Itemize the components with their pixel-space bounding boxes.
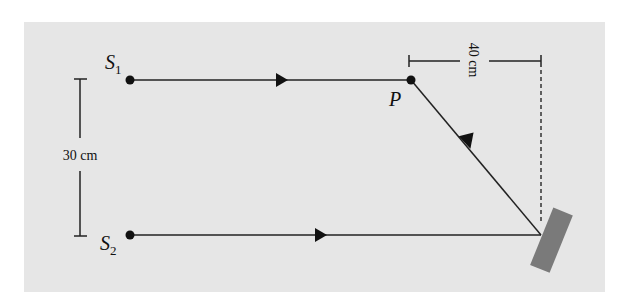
point-p-label: P (388, 88, 401, 110)
vertical-dimension-30cm: 30 cm (63, 79, 98, 236)
reflected-ray (411, 80, 541, 235)
direct-ray (130, 73, 411, 87)
arrow-right-icon (315, 228, 327, 242)
source-2-dot (126, 231, 135, 240)
arrow-right-icon (276, 73, 288, 87)
source-1-dot (126, 76, 135, 85)
incident-ray (130, 228, 541, 242)
source-1-label: S1 (105, 51, 122, 77)
point-p-dot (407, 76, 416, 85)
horizontal-distance-label: 40 cm (466, 43, 481, 78)
horizontal-dimension-40cm: 40 cm (409, 43, 541, 78)
interference-diagram: 30 cm 40 cm S1 S2 P (0, 0, 631, 302)
mirror (530, 208, 573, 273)
source-2-label: S2 (100, 232, 117, 258)
vertical-distance-label: 30 cm (63, 148, 98, 163)
